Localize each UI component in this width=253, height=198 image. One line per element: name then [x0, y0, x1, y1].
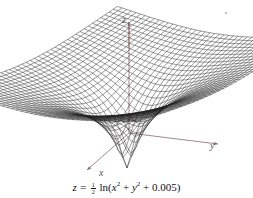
z-axis-label: z	[122, 14, 126, 25]
caption-z: z =	[73, 181, 90, 193]
caption-fraction: 12	[91, 182, 96, 195]
surface-plot-figure: z y x z = 12 ln(x2 + y2 + 0.005)	[0, 0, 253, 198]
surface-plot	[0, 0, 253, 198]
function-caption: z = 12 ln(x2 + y2 + 0.005)	[0, 180, 253, 195]
x-axis-label: x	[99, 167, 103, 178]
y-axis-label: y	[210, 140, 214, 151]
speck-mark	[225, 12, 227, 14]
